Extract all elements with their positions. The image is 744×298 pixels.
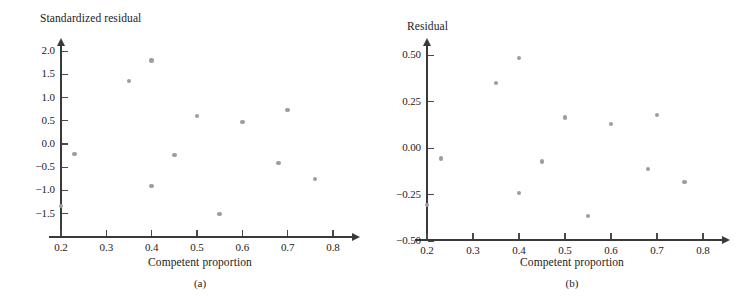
y-axis-tick-label: −0.25 bbox=[379, 188, 421, 200]
y-axis-tick bbox=[62, 213, 68, 214]
x-axis-tick-label: 0.4 bbox=[132, 241, 172, 253]
scatter-point bbox=[609, 122, 613, 126]
panel-caption-a: (a) bbox=[100, 277, 300, 289]
x-axis-tick bbox=[106, 230, 107, 236]
x-axis-tick bbox=[60, 230, 61, 236]
y-axis-tick-label: 0.0 bbox=[13, 137, 55, 149]
x-axis-line bbox=[49, 236, 352, 238]
x-axis-tick-label: 0.3 bbox=[453, 244, 493, 256]
x-axis-tick bbox=[610, 233, 611, 239]
panel-caption-b: (b) bbox=[472, 277, 672, 289]
y-axis-arrow-icon bbox=[57, 38, 65, 46]
x-axis-tick bbox=[151, 230, 152, 236]
y-axis-tick bbox=[428, 194, 434, 195]
figure-residual-plots: Standardized residual 2.01.51.00.50.0−0.… bbox=[0, 0, 744, 298]
scatter-point bbox=[313, 177, 317, 181]
y-axis-tick bbox=[62, 74, 68, 75]
scatter-point bbox=[586, 214, 590, 218]
y-axis-tick-label: 1.5 bbox=[13, 67, 55, 79]
x-axis-tick-label: 0.8 bbox=[313, 241, 353, 253]
x-axis-tick bbox=[332, 230, 333, 236]
scatter-point bbox=[240, 120, 244, 124]
scatter-point bbox=[285, 108, 289, 112]
scatter-point bbox=[276, 161, 280, 165]
x-axis-tick bbox=[702, 233, 703, 239]
x-axis-tick bbox=[518, 233, 519, 239]
y-axis-tick-label: 0.00 bbox=[379, 141, 421, 153]
x-axis-tick-label: 0.6 bbox=[222, 241, 262, 253]
y-axis-tick-label: 2.0 bbox=[13, 44, 55, 56]
scatter-point bbox=[149, 58, 153, 62]
x-axis-title: Competent proportion bbox=[100, 256, 300, 268]
y-axis-tick-label: 0.25 bbox=[379, 95, 421, 107]
x-axis-tick bbox=[426, 233, 427, 239]
y-axis-arrow-icon bbox=[423, 38, 431, 46]
x-axis-tick-label: 0.5 bbox=[545, 244, 585, 256]
x-axis-tick-label: 0.2 bbox=[407, 244, 447, 256]
scatter-point bbox=[425, 203, 429, 207]
scatter-point bbox=[172, 153, 176, 157]
x-axis-tick bbox=[564, 233, 565, 239]
x-axis-tick-label: 0.6 bbox=[591, 244, 631, 256]
y-axis-tick-label: 0.5 bbox=[13, 114, 55, 126]
scatter-point bbox=[655, 113, 659, 117]
x-axis-tick-label: 0.5 bbox=[177, 241, 217, 253]
x-axis-tick bbox=[287, 230, 288, 236]
x-axis-tick-label: 0.2 bbox=[41, 241, 81, 253]
x-axis-tick bbox=[472, 233, 473, 239]
y-axis-tick bbox=[62, 51, 68, 52]
scatter-point bbox=[494, 81, 498, 85]
y-axis-tick-label: 1.0 bbox=[13, 91, 55, 103]
y-axis-tick-label: −1.0 bbox=[13, 183, 55, 195]
scatter-point bbox=[517, 191, 521, 195]
x-axis-tick-label: 0.3 bbox=[86, 241, 126, 253]
scatter-point bbox=[72, 152, 76, 156]
x-axis-tick-label: 0.7 bbox=[268, 241, 308, 253]
x-axis-tick-label: 0.4 bbox=[499, 244, 539, 256]
y-axis-tick bbox=[62, 120, 68, 121]
x-axis-line bbox=[415, 239, 722, 241]
y-axis-tick-label: −0.5 bbox=[13, 160, 55, 172]
y-axis-tick bbox=[428, 101, 434, 102]
scatter-point bbox=[217, 212, 221, 216]
scatter-point bbox=[149, 184, 153, 188]
x-axis-tick bbox=[196, 230, 197, 236]
y-axis-tick bbox=[428, 55, 434, 56]
x-axis-tick-label: 0.8 bbox=[683, 244, 723, 256]
y-axis-tick bbox=[428, 148, 434, 149]
y-axis-tick bbox=[428, 241, 434, 242]
y-axis-tick bbox=[62, 143, 68, 144]
y-axis-tick bbox=[62, 97, 68, 98]
x-axis-tick-label: 0.7 bbox=[637, 244, 677, 256]
x-axis-tick bbox=[242, 230, 243, 236]
scatter-point bbox=[517, 56, 521, 60]
panel-b: Residual 0.500.250.00−0.25−0.500.20.30.4… bbox=[372, 0, 744, 298]
y-axis-line bbox=[426, 46, 428, 240]
scatter-point bbox=[195, 114, 199, 118]
y-axis-tick-label: 0.50 bbox=[379, 48, 421, 60]
scatter-point bbox=[59, 204, 63, 208]
y-axis-tick-label: −1.5 bbox=[13, 207, 55, 219]
x-axis-tick bbox=[656, 233, 657, 239]
x-axis-title: Competent proportion bbox=[472, 256, 672, 268]
y-axis-title: Residual bbox=[407, 20, 448, 32]
scatter-point bbox=[682, 180, 686, 184]
y-axis-title: Standardized residual bbox=[40, 12, 141, 24]
scatter-point bbox=[646, 167, 650, 171]
x-axis-arrow-icon bbox=[722, 236, 730, 244]
scatter-point bbox=[540, 159, 544, 163]
y-axis-tick bbox=[62, 167, 68, 168]
x-axis-arrow-icon bbox=[352, 233, 360, 241]
scatter-point bbox=[127, 79, 131, 83]
scatter-point bbox=[563, 115, 567, 119]
panel-a: Standardized residual 2.01.51.00.50.0−0.… bbox=[0, 0, 372, 298]
scatter-point bbox=[439, 156, 443, 160]
y-axis-tick bbox=[62, 190, 68, 191]
